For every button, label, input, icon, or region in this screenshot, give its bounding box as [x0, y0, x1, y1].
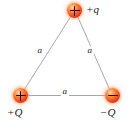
charge-label-bottom-right: −Q: [100, 107, 115, 118]
charge-label-top: +q: [86, 4, 99, 15]
charge-sphere-top: [67, 3, 82, 18]
minus-glyph: [108, 95, 118, 97]
side-label-left: a: [36, 46, 44, 55]
side-label-bottom: a: [61, 87, 69, 96]
charge-sphere-bottom-left: [13, 88, 28, 103]
edge-right: [76, 12, 112, 95]
charge-triangle-figure: +q +Q −Q a a a: [0, 0, 130, 127]
side-label-right: a: [86, 46, 94, 55]
charge-sphere-bottom-right: [105, 88, 120, 103]
edge-left: [22, 12, 75, 95]
charge-label-bottom-left: +Q: [7, 107, 22, 118]
